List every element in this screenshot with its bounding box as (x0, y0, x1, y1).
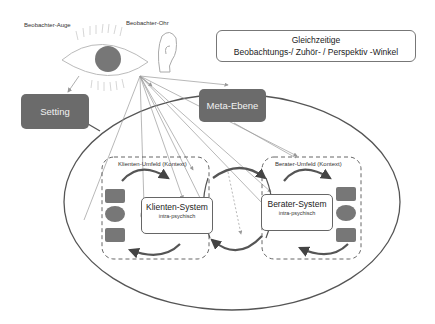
ear-icon (158, 32, 176, 72)
meta-level-box: Meta-Ebene (199, 89, 266, 122)
counselor-system-box: Berater-System intra-psychisch (261, 194, 333, 231)
counselor-context-label: Berater-Umfeld (Kontext) (275, 161, 342, 167)
client-system-title: Klienten-System (142, 202, 212, 212)
client-context-label: Klienten-Umfeld (Kontext) (118, 161, 187, 167)
counselor-system-subtitle: intra-psychisch (262, 210, 332, 216)
title-line-2: Beobachtungs-/ Zuhör- / Perspektiv -Wink… (217, 46, 415, 58)
observer-eye-label: Beobachter-Auge (24, 22, 71, 28)
title-box: Gleichzeitige Beobachtungs-/ Zuhör- / Pe… (216, 30, 416, 62)
counselor-system-title: Berater-System (262, 199, 332, 209)
setting-box: Setting (21, 94, 89, 129)
observer-ear-label: Beobachter-Ohr (126, 20, 169, 26)
client-system-box: Klienten-System intra-psychisch (141, 197, 213, 234)
client-system-subtitle: intra-psychisch (142, 213, 212, 219)
eye-icon (62, 24, 148, 92)
title-line-1: Gleichzeitige (217, 34, 415, 46)
